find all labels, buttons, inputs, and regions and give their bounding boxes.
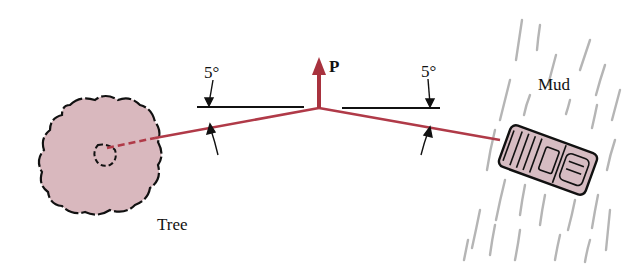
right-angle-indicator <box>421 79 434 155</box>
force-arrow <box>312 57 326 108</box>
rope-left-segment <box>155 108 319 138</box>
car <box>497 124 599 197</box>
rope-right-segment <box>319 108 500 140</box>
mud-label: Mud <box>538 75 571 94</box>
left-angle-label: 5° <box>204 63 219 82</box>
tree-label: Tree <box>157 215 188 234</box>
tree-canopy <box>39 96 162 215</box>
force-arrowhead <box>312 57 326 75</box>
tree <box>39 96 162 215</box>
right-angle-label: 5° <box>421 62 436 81</box>
rope-pull-diagram: 5° 5° P Mud Tree <box>0 0 639 267</box>
left-angle-indicator <box>205 80 218 155</box>
force-label: P <box>329 57 339 76</box>
rope <box>107 108 500 148</box>
